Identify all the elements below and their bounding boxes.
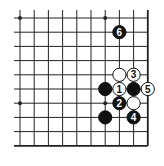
go-board: 631524 bbox=[0, 0, 164, 166]
stone-disc bbox=[99, 111, 112, 124]
white-stone-3: 3 bbox=[127, 68, 140, 81]
white-stone-5: 5 bbox=[141, 82, 154, 95]
white-stone-1: 1 bbox=[113, 82, 126, 95]
move-number: 4 bbox=[131, 112, 137, 123]
white-stone bbox=[113, 68, 126, 81]
stone-disc bbox=[113, 68, 126, 81]
black-stone-6: 6 bbox=[113, 26, 126, 39]
black-stone bbox=[99, 111, 112, 124]
black-stone bbox=[99, 82, 112, 95]
stone-disc bbox=[127, 97, 140, 110]
move-number: 1 bbox=[117, 84, 123, 95]
white-stone bbox=[127, 97, 140, 110]
black-stone-2: 2 bbox=[113, 97, 126, 110]
stone-disc bbox=[127, 82, 140, 95]
black-stone-4: 4 bbox=[127, 111, 140, 124]
star-point bbox=[103, 101, 107, 105]
stone-disc bbox=[99, 82, 112, 95]
move-number: 2 bbox=[117, 98, 123, 109]
black-stone bbox=[127, 82, 140, 95]
star-point bbox=[18, 101, 22, 105]
move-number: 5 bbox=[145, 84, 151, 95]
star-point bbox=[18, 16, 22, 20]
move-number: 3 bbox=[131, 69, 137, 80]
star-point bbox=[103, 16, 107, 20]
move-number: 6 bbox=[117, 27, 123, 38]
